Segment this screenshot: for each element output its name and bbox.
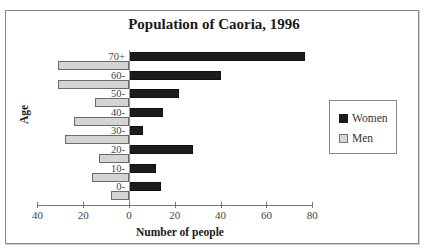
age-label: 10-: [85, 163, 125, 174]
bar-women-30: [129, 126, 143, 135]
x-tick: [83, 202, 84, 208]
x-tick: [221, 202, 222, 208]
age-label: 0-: [85, 181, 125, 192]
x-axis-label: Number of people: [136, 226, 224, 238]
bar-women-40: [129, 108, 163, 117]
x-tick-label: 80: [297, 209, 327, 221]
zero-axis-line: [129, 50, 130, 205]
legend: Women Men: [329, 100, 397, 154]
legend-label-men: Men: [352, 132, 373, 144]
age-label: 40-: [85, 107, 125, 118]
bar-women-10: [129, 164, 156, 173]
bar-women-0: [129, 182, 161, 191]
age-label: 30-: [85, 125, 125, 136]
age-label: 20-: [85, 144, 125, 155]
x-tick: [37, 202, 38, 208]
x-tick: [175, 202, 176, 208]
women-swatch-icon: [339, 114, 348, 123]
legend-item-men: Men: [339, 132, 373, 144]
age-label: 70+: [85, 51, 125, 62]
bar-women-50: [129, 89, 179, 98]
x-tick-label: 40: [22, 209, 52, 221]
x-tick-label: 40: [206, 209, 236, 221]
bar-women-60: [129, 71, 221, 80]
x-tick-label: 60: [251, 209, 281, 221]
bar-women-20: [129, 145, 193, 154]
x-tick: [312, 202, 313, 208]
y-axis-label: Age: [18, 105, 30, 124]
legend-label-women: Women: [352, 112, 387, 124]
x-tick-label: 0: [114, 209, 144, 221]
x-tick-label: 20: [68, 209, 98, 221]
x-tick: [129, 202, 130, 208]
x-tick: [266, 202, 267, 208]
legend-item-women: Women: [339, 112, 387, 124]
bar-women-70: [129, 52, 305, 61]
x-tick-label: 20: [160, 209, 190, 221]
bar-men-0: [111, 191, 129, 200]
age-label: 60-: [85, 70, 125, 81]
men-swatch-icon: [339, 134, 348, 143]
age-label: 50-: [85, 88, 125, 99]
